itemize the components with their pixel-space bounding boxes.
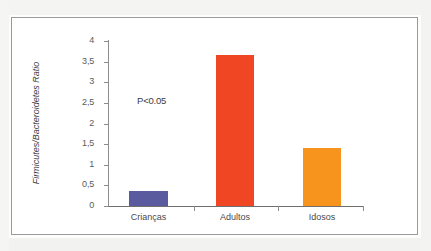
y-axis-tick-label: 3,5 [0, 56, 94, 66]
bar-adultos [216, 55, 254, 206]
scanned-page: Firmicutes/Bacteroidetes Ratio 00,511,52… [0, 0, 431, 251]
x-axis-label: Idosos [277, 212, 367, 222]
y-axis-tick-label: 3 [0, 76, 94, 86]
x-axis-label: Crianças [104, 212, 194, 222]
y-axis-tick-label: 0 [0, 200, 94, 210]
y-axis-tick [104, 103, 109, 104]
x-axis-line [108, 206, 363, 207]
y-axis-tick [104, 62, 109, 63]
y-axis-tick [104, 165, 109, 166]
y-axis-tick-label: 2,5 [0, 97, 94, 107]
bar-idosos [303, 148, 341, 206]
y-axis-tick-label: 1 [0, 159, 94, 169]
y-axis-tick-label: 4 [0, 35, 94, 45]
bar-crian-as [129, 191, 168, 206]
y-axis-tick [104, 82, 109, 83]
y-axis-tick-label: 2 [0, 118, 94, 128]
y-axis-tick [104, 206, 109, 207]
x-axis-tick [363, 206, 364, 211]
x-axis-label: Adultos [190, 212, 280, 222]
y-axis-tick-label: 1,5 [0, 138, 94, 148]
x-axis-tick [194, 206, 195, 211]
y-axis-tick [104, 144, 109, 145]
y-axis-tick [104, 185, 109, 186]
y-axis-tick-label: 0,5 [0, 179, 94, 189]
y-axis-tick [104, 41, 109, 42]
x-axis-tick [278, 206, 279, 211]
p-value-annotation: P<0.05 [137, 95, 166, 106]
y-axis-tick [104, 124, 109, 125]
bar-chart: Firmicutes/Bacteroidetes Ratio 00,511,52… [0, 0, 431, 251]
